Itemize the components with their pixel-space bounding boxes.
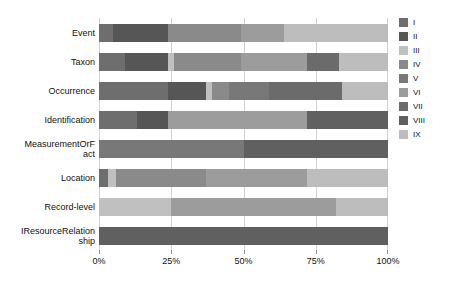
bar-segment [307, 53, 339, 71]
bar-row [99, 111, 388, 129]
bar-segment [284, 24, 388, 42]
legend-label: V [413, 74, 418, 83]
y-axis-labels: EventTaxonOccurrenceIdentificationMeasur… [0, 18, 95, 250]
x-axis-tick-label: 50% [234, 256, 252, 267]
plot-area [99, 18, 388, 250]
y-axis-tick-label: Record-level [0, 202, 95, 212]
legend-swatch-icon [399, 102, 408, 111]
x-axis-tick-mark [387, 250, 388, 254]
bar-row [99, 198, 388, 216]
legend-label: IX [413, 130, 421, 139]
bar-segment [342, 82, 388, 100]
bar-row [99, 140, 388, 158]
legend-swatch-icon [399, 18, 408, 27]
legend-label: VII [413, 102, 423, 111]
legend-label: II [413, 32, 417, 41]
y-axis-tick-label: IResourceRelationship [0, 226, 95, 246]
bar-segment [269, 82, 341, 100]
bar-segment [168, 82, 206, 100]
legend-swatch-icon [399, 74, 408, 83]
y-axis-tick-label: MeasurementOrFact [0, 139, 95, 159]
bar-segment [108, 169, 117, 187]
x-axis-tick-label: 0% [92, 256, 105, 267]
bar-segment [99, 227, 388, 245]
bar-segment [229, 82, 269, 100]
legend-swatch-icon [399, 130, 408, 139]
bar-row [99, 169, 388, 187]
bar-row [99, 24, 388, 42]
y-axis-tick-label: Taxon [0, 57, 95, 67]
legend-swatch-icon [399, 88, 408, 97]
y-axis-tick-label: Identification [0, 115, 95, 125]
bar-segment [168, 24, 240, 42]
bar-segment [241, 24, 284, 42]
bar-segment [244, 140, 389, 158]
legend-swatch-icon [399, 116, 408, 125]
bar-segment [99, 82, 168, 100]
x-axis-tick-mark [316, 250, 317, 254]
legend-label: I [413, 18, 415, 27]
y-axis-tick-label: Location [0, 173, 95, 183]
bar-row [99, 227, 388, 245]
legend-item: IX [399, 127, 451, 141]
x-axis: 0%25%50%75%100% [99, 250, 388, 274]
legend-label: III [413, 46, 420, 55]
bar-segment [99, 198, 171, 216]
bar-segment [116, 169, 206, 187]
stacked-bar-chart: EventTaxonOccurrenceIdentificationMeasur… [0, 0, 452, 289]
bar-segment [171, 198, 336, 216]
legend-label: IV [413, 60, 421, 69]
legend-swatch-icon [399, 60, 408, 69]
legend-label: VIII [413, 116, 425, 125]
y-axis-tick-label: Event [0, 28, 95, 38]
bar-segment [241, 53, 307, 71]
x-axis-tick-label: 100% [376, 256, 399, 267]
legend-swatch-icon [399, 46, 408, 55]
legend-label: VI [413, 88, 421, 97]
x-axis-tick-mark [99, 250, 100, 254]
bar-row [99, 53, 388, 71]
legend-item: V [399, 71, 451, 85]
x-axis-tick-mark [171, 250, 172, 254]
bar-segment [307, 111, 388, 129]
y-axis-tick-label: Occurrence [0, 86, 95, 96]
bar-row [99, 82, 388, 100]
x-axis-tick-label: 25% [162, 256, 180, 267]
bar-segment [99, 169, 108, 187]
bar-segment [206, 169, 307, 187]
bar-segment [99, 24, 113, 42]
bar-segment [137, 111, 169, 129]
bar-segment [99, 111, 137, 129]
bar-segment [174, 53, 240, 71]
bar-segment [339, 53, 388, 71]
bar-segment [336, 198, 388, 216]
bar-segment [113, 24, 168, 42]
legend-item: VII [399, 99, 451, 113]
bar-segment [99, 140, 244, 158]
x-axis-tick-mark [244, 250, 245, 254]
legend-item: II [399, 29, 451, 43]
legend-item: I [399, 15, 451, 29]
bar-segment [99, 53, 125, 71]
legend-item: IV [399, 57, 451, 71]
bar-segment [125, 53, 168, 71]
legend-item: VIII [399, 113, 451, 127]
bar-segment [212, 82, 229, 100]
chart-legend: IIIIIIIVVVIVIIVIIIIX [399, 15, 451, 141]
bar-segment [307, 169, 388, 187]
legend-item: VI [399, 85, 451, 99]
x-axis-tick-label: 75% [307, 256, 325, 267]
legend-swatch-icon [399, 32, 408, 41]
legend-item: III [399, 43, 451, 57]
bar-segment [168, 111, 307, 129]
